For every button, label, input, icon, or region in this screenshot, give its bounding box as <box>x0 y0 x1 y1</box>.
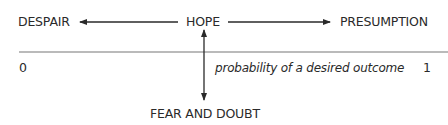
despair-label: DESPAIR <box>18 14 70 29</box>
presumption-label: PRESUMPTION <box>340 14 428 29</box>
axis-caption: probability of a desired outcome <box>215 61 404 75</box>
fear-and-doubt-label: FEAR AND DOUBT <box>150 106 260 121</box>
axis-min-label: 0 <box>19 60 27 75</box>
hope-label: HOPE <box>186 14 220 29</box>
axis-max-label: 1 <box>423 60 431 75</box>
